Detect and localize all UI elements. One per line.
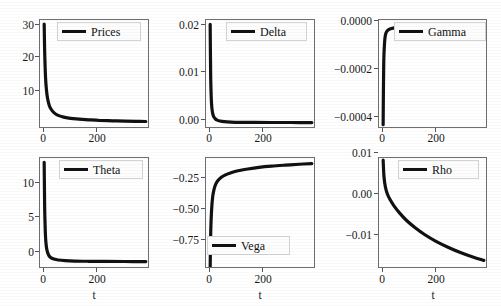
xtick-label-rho-1: 200 [420, 274, 452, 286]
xtick-label-vega-1: 200 [247, 274, 279, 286]
ytick-label-vega-1: −0.50 [153, 204, 199, 216]
ytick-label-gamma-0: 0.0000 [316, 16, 372, 28]
ytick-label-delta-1: 0.01 [155, 67, 199, 79]
xaxis-label-rho: t [418, 290, 448, 302]
ytick-label-delta-2: 0.00 [155, 115, 199, 127]
xtick-label-rho-0: 0 [367, 274, 397, 286]
ytick-label-gamma-1: −0.0002 [316, 64, 372, 76]
ytick-label-delta-0: 0.02 [155, 20, 199, 32]
xtick-label-gamma-1: 200 [420, 133, 452, 145]
legend-delta[interactable]: Delta [226, 22, 307, 41]
legend-theta[interactable]: Theta [59, 160, 143, 179]
legend-line-icon [64, 168, 88, 171]
legend-prices[interactable]: Prices [57, 22, 141, 41]
xtick-mark [96, 268, 97, 272]
ytick-mark [35, 251, 39, 252]
ytick-label-prices-2: 10 [4, 86, 34, 98]
xtick-label-delta-0: 0 [194, 133, 224, 145]
ytick-label-vega-0: −0.25 [153, 173, 199, 185]
ytick-mark [35, 216, 39, 217]
ytick-label-prices-1: 20 [4, 52, 34, 64]
ytick-mark [201, 177, 205, 178]
xaxis-label-theta: t [79, 290, 109, 302]
ytick-label-vega-2: −0.75 [153, 235, 199, 247]
xtick-label-prices-1: 200 [81, 133, 113, 145]
ytick-mark [201, 119, 205, 120]
greeks-figure: 30 20 10 0 200 Prices 0.02 0.01 0.00 0 2… [0, 0, 501, 306]
ytick-mark [374, 193, 378, 194]
legend-label-rho: Rho [432, 164, 452, 176]
legend-label-prices: Prices [91, 26, 120, 38]
legend-line-icon [231, 30, 255, 33]
ytick-label-theta-2: 0 [6, 247, 34, 259]
legend-gamma[interactable]: Gamma [394, 22, 486, 41]
xtick-label-gamma-0: 0 [367, 133, 397, 145]
xaxis-label-vega: t [245, 290, 275, 302]
legend-rho[interactable]: Rho [398, 160, 479, 179]
ytick-label-rho-0: 0.01 [324, 148, 372, 160]
ytick-mark [374, 234, 378, 235]
ytick-label-prices-0: 30 [4, 20, 34, 32]
xtick-mark [382, 268, 383, 272]
legend-line-icon [212, 244, 236, 247]
legend-line-icon [62, 30, 86, 33]
ytick-mark [35, 90, 39, 91]
ytick-mark [374, 116, 378, 117]
ytick-label-rho-1: 0.00 [324, 189, 372, 201]
ytick-label-theta-0: 10 [6, 178, 34, 190]
legend-line-icon [399, 30, 423, 33]
ytick-mark [201, 24, 205, 25]
xtick-label-theta-0: 0 [28, 274, 58, 286]
legend-vega[interactable]: Vega [207, 236, 290, 255]
ytick-mark [201, 71, 205, 72]
xtick-mark [262, 268, 263, 272]
ytick-mark [374, 20, 378, 21]
xtick-label-delta-1: 200 [247, 133, 279, 145]
ytick-mark [201, 208, 205, 209]
ytick-mark [35, 24, 39, 25]
xtick-label-theta-1: 200 [81, 274, 113, 286]
ytick-mark [374, 152, 378, 153]
ytick-mark [35, 56, 39, 57]
xtick-mark [43, 268, 44, 272]
legend-label-theta: Theta [93, 164, 120, 176]
ytick-label-rho-2: −0.01 [324, 230, 372, 242]
xtick-label-vega-0: 0 [194, 274, 224, 286]
ytick-mark [35, 182, 39, 183]
ytick-mark [201, 239, 205, 240]
legend-label-vega: Vega [241, 240, 265, 252]
xtick-mark [209, 268, 210, 272]
legend-label-gamma: Gamma [428, 26, 466, 38]
ytick-label-theta-1: 5 [6, 212, 34, 224]
xtick-mark [435, 268, 436, 272]
xtick-label-prices-0: 0 [28, 133, 58, 145]
ytick-label-gamma-2: −0.0004 [316, 112, 372, 124]
ytick-mark [374, 68, 378, 69]
legend-line-icon [403, 168, 427, 171]
legend-label-delta: Delta [260, 26, 286, 38]
